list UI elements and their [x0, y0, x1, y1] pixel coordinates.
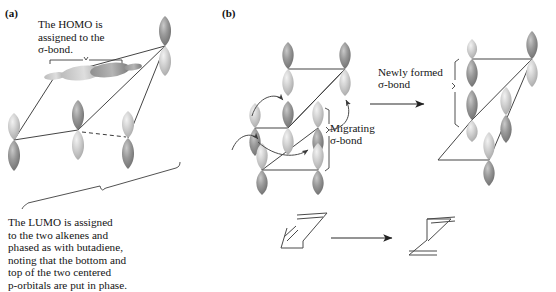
p-orbital-a-bottom-left — [8, 113, 20, 171]
panel-b-product-orbitals — [438, 31, 538, 186]
forming-bond-dashed — [82, 132, 126, 137]
lumo-bracket — [22, 162, 180, 209]
p-orbital-b-product-bottom-mid — [483, 132, 494, 186]
panel-a-orbital-structure — [8, 16, 180, 209]
skeletal-structure-product — [409, 217, 455, 255]
p-orbital-a-mid-right — [122, 111, 134, 169]
newly-formed-bond-bracket — [452, 59, 459, 127]
p-orbital-b-bottom-right — [312, 143, 323, 195]
p-orbital-a-top-right — [159, 16, 171, 76]
panel-b-left-bond-framework — [255, 69, 345, 170]
panel-b-reactant-orbitals — [232, 42, 351, 195]
skeletal-reaction-row — [281, 213, 455, 255]
sigma-bond-orbital-horizontal — [44, 61, 143, 83]
p-orbital-b-product-top-left — [466, 39, 477, 87]
p-orbital-b-product-center — [500, 87, 511, 143]
migrating-bond-bracket — [325, 108, 329, 171]
skeletal-structure-reactant — [281, 213, 327, 248]
p-orbital-a-mid-left — [72, 100, 84, 160]
p-orbital-b-bottom-mid — [256, 143, 267, 195]
